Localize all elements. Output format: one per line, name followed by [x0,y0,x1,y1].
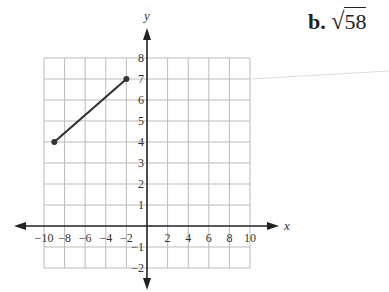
x-tick-label: 8 [226,231,232,245]
y-tick-label: 4 [138,135,144,149]
y-tick-label: 1 [138,198,144,212]
x-axis-left-arrow-icon [14,222,26,230]
y-axis-down-arrow-icon [143,278,151,290]
segment-endpoint [51,139,57,145]
scan-artifact-line [250,71,389,79]
x-tick-label: 6 [206,231,212,245]
x-tick-label: 10 [244,231,256,245]
y-tick-label: 8 [138,51,144,65]
coordinate-plane: xy−10−8−6−4−2246810−2−112345678 [0,0,389,292]
y-tick-label: 7 [138,72,144,86]
x-axis-label: x [283,218,290,233]
line-segment [54,79,126,142]
segment-endpoint [123,76,129,82]
y-tick-label: 2 [138,177,144,191]
x-tick-label: 4 [185,231,191,245]
y-tick-label: 5 [138,114,144,128]
x-tick-label: 2 [165,231,171,245]
problem-figure: b. √58 xy−10−8−6−4−2246810−2−112345678 [0,0,389,292]
y-tick-label: −1 [131,240,144,254]
y-tick-label: 3 [138,156,144,170]
x-axis-right-arrow-icon [267,222,279,230]
x-tick-label: −4 [99,231,112,245]
y-tick-label: −2 [131,261,144,275]
y-axis-up-arrow-icon [143,28,151,40]
x-tick-label: −10 [35,231,54,245]
y-axis-label: y [142,8,150,23]
y-tick-label: 6 [138,93,144,107]
x-tick-label: −8 [58,231,71,245]
x-tick-label: −6 [79,231,92,245]
